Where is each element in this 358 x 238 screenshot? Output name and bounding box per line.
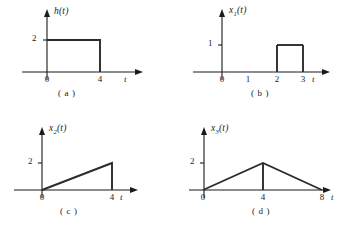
panel-b-plot <box>179 0 358 119</box>
panel-c-time-axis-label: t <box>120 192 123 202</box>
panel-c-tick-4: 4 <box>107 192 117 202</box>
panel-d-tick-8: 8 <box>317 192 327 202</box>
panel-c-caption: ( c ) <box>60 206 78 216</box>
panel-a-time-axis-label: t <box>124 74 127 84</box>
panel-d-value-label-2: 2 <box>190 156 195 166</box>
panel-b-time-axis-label: t <box>312 74 315 84</box>
panel-a-signal-label: h(t) <box>54 6 69 16</box>
panel-d-tick-4: 4 <box>258 192 268 202</box>
panel-b-caption: ( b ) <box>251 88 269 98</box>
panel-b-tick-0: 0 <box>217 74 227 84</box>
panel-d-signal-label: x3(t) <box>211 123 229 135</box>
panel-b-tick-2: 2 <box>272 74 282 84</box>
panel-b: x1(t) 1 0 1 2 3 t ( b ) <box>179 0 358 119</box>
panel-b-signal-label: x1(t) <box>229 5 247 17</box>
panel-c-plot <box>0 119 179 238</box>
panel-d-time-axis-label: t <box>331 192 334 202</box>
panel-b-tick-1: 1 <box>243 74 253 84</box>
panel-a-value-label-2: 2 <box>32 33 37 43</box>
panel-a-plot <box>0 0 179 119</box>
panel-a-tick-0: 0 <box>42 74 52 84</box>
panel-b-value-label-1: 1 <box>208 38 213 48</box>
panel-d: x3(t) 2 0 4 8 t ( d ) <box>179 119 358 238</box>
panel-a-caption: ( a ) <box>58 88 76 98</box>
panel-a-tick-4: 4 <box>95 74 105 84</box>
panel-d-caption: ( d ) <box>252 206 270 216</box>
panel-d-tick-0: 0 <box>198 192 208 202</box>
panel-c: x2(t) 2 0 4 t ( c ) <box>0 119 179 238</box>
panel-d-plot <box>179 119 358 238</box>
panel-b-tick-3: 3 <box>298 74 308 84</box>
panel-c-signal-label: x2(t) <box>49 123 67 135</box>
panel-a: h(t) 2 0 4 t ( a ) <box>0 0 179 119</box>
panel-c-value-label-2: 2 <box>28 156 33 166</box>
panel-c-tick-0: 0 <box>37 192 47 202</box>
figure-grid: h(t) 2 0 4 t ( a ) x1(t) 1 0 1 2 3 <box>0 0 358 238</box>
